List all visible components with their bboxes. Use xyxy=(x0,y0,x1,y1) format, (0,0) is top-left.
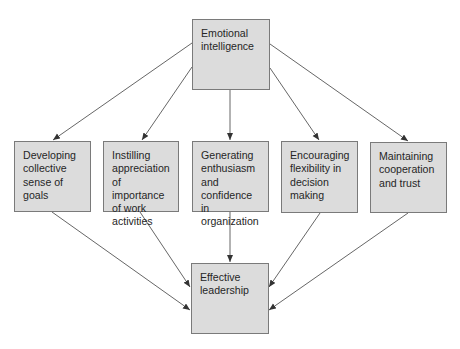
node-instilling-work-importance: Instilling appreciation of importance of… xyxy=(103,141,179,212)
arrow-ei-to-flexibility xyxy=(270,68,319,140)
arrow-flexibility-to-leadership xyxy=(269,213,320,287)
arrow-ei-to-goals xyxy=(53,43,192,140)
node-effective-leadership: Effective leadership xyxy=(191,263,269,334)
node-encouraging-flexibility: Encouraging flexibility in decision maki… xyxy=(281,141,358,213)
arrow-ei-to-work xyxy=(142,67,192,140)
node-emotional-intelligence: Emotional intelligence xyxy=(192,19,270,90)
arrow-cooperation-to-leadership xyxy=(269,213,408,310)
node-generating-enthusiasm: Generating enthusiasm and confidence in … xyxy=(192,141,269,212)
node-maintaining-cooperation: Maintaining cooperation and trust xyxy=(370,142,447,213)
node-developing-collective-goals: Developing collective sense of goals xyxy=(14,141,91,212)
arrow-ei-to-cooperation xyxy=(270,44,408,141)
